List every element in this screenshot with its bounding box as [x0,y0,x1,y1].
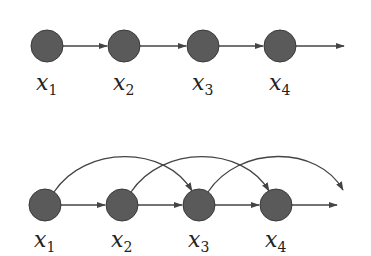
node-x2 [108,30,140,62]
label-x2: x2 [111,227,132,255]
node-x1 [29,189,61,221]
label-x4: x4 [265,227,286,255]
node-x2 [106,189,138,221]
node-x3 [187,30,219,62]
label-x3: x3 [192,70,213,98]
node-x4 [264,30,296,62]
first-order-chain: x1 x2 x3 x4 [31,30,344,98]
node-x4 [260,189,292,221]
node-x1 [31,30,63,62]
label-x3: x3 [188,227,209,255]
edge-x3-next [208,156,343,192]
label-x4: x4 [269,70,290,98]
label-x2: x2 [113,70,134,98]
label-x1: x1 [34,227,55,255]
markov-chain-diagram: x1 x2 x3 x4 x1 x2 x3 x4 [0,0,371,256]
second-order-chain: x1 x2 x3 x4 [29,156,343,255]
node-x3 [183,189,215,221]
label-x1: x1 [36,70,57,98]
